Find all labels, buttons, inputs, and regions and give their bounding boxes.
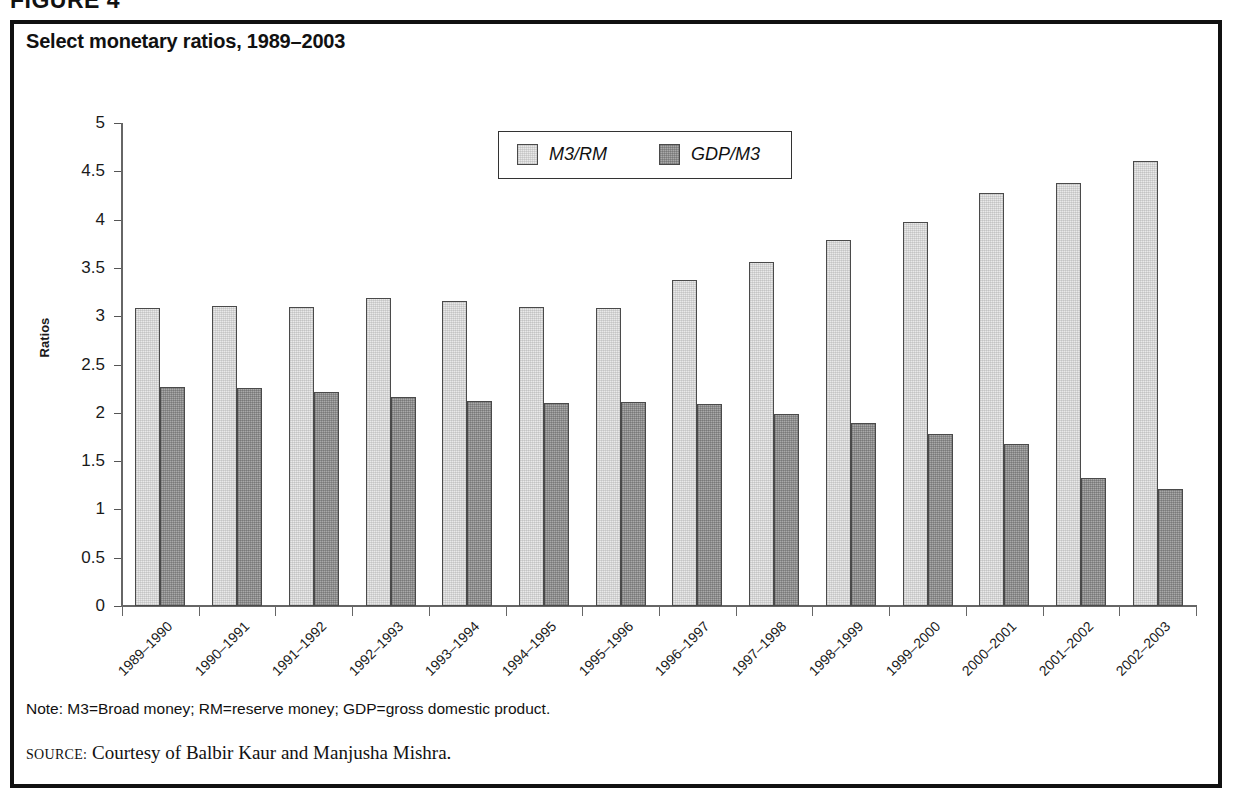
chart-note: Note: M3=Broad money; RM=reserve money; … [26, 700, 550, 718]
y-tick-mark [114, 171, 121, 172]
bar-m3-rm-1989–1990 [135, 308, 160, 606]
x-category-label: 1993–1994 [400, 618, 482, 700]
y-tick-label: 0.5 [59, 549, 105, 566]
bar-gdp-m3-1989–1990 [160, 387, 185, 606]
x-tick-mark [966, 607, 967, 616]
bar-m3-rm-1994–1995 [519, 307, 544, 606]
x-tick-mark [1043, 607, 1044, 616]
chart-source-text: Courtesy of Balbir Kaur and Manjusha Mis… [87, 742, 451, 763]
x-category-label: 1989–1990 [94, 618, 176, 700]
bar-gdp-m3-2002–2003 [1158, 489, 1183, 606]
bar-m3-rm-2001–2002 [1056, 183, 1081, 606]
bar-gdp-m3-1991–1992 [314, 392, 339, 606]
y-tick-mark [114, 509, 121, 510]
y-tick-mark [114, 316, 121, 317]
y-tick-mark [114, 413, 121, 414]
x-category-label: 1996–1997 [631, 618, 713, 700]
bar-gdp-m3-1996–1997 [697, 404, 722, 606]
bar-m3-rm-1999–2000 [903, 222, 928, 606]
x-category-label: 1999–2000 [861, 618, 943, 700]
x-category-label: 1992–1993 [324, 618, 406, 700]
x-category-label: 1990–1991 [170, 618, 252, 700]
x-category-label: 2001–2002 [1014, 618, 1096, 700]
x-category-label: 1995–1996 [554, 618, 636, 700]
chart-legend: M3/RMGDP/M3 [498, 131, 792, 179]
legend-swatch-icon [517, 144, 538, 165]
y-tick-label: 3.5 [59, 259, 105, 276]
chart-source: SOURCE: Courtesy of Balbir Kaur and Manj… [26, 742, 451, 764]
bar-gdp-m3-1993–1994 [467, 401, 492, 606]
bar-m3-rm-1993–1994 [442, 301, 467, 606]
y-tick-mark [114, 365, 121, 366]
bar-gdp-m3-1995–1996 [621, 402, 646, 606]
bar-gdp-m3-1997–1998 [774, 414, 799, 606]
chart-plot-area: Ratios 00.511.522.533.544.55 1989–199019… [0, 0, 1236, 810]
y-tick-label: 2.5 [59, 356, 105, 373]
x-category-label: 2000–2001 [937, 618, 1019, 700]
legend-entry-m3-rm: M3/RM [517, 144, 607, 165]
y-tick-label: 2 [59, 404, 105, 421]
bar-m3-rm-1998–1999 [826, 240, 851, 606]
bar-gdp-m3-1999–2000 [928, 434, 953, 606]
x-tick-mark [506, 607, 507, 616]
y-tick-mark [114, 268, 121, 269]
y-tick-label: 3 [59, 307, 105, 324]
y-tick-label: 4 [59, 211, 105, 228]
bar-m3-rm-1991–1992 [289, 307, 314, 606]
y-tick-label: 5 [59, 114, 105, 131]
x-category-label: 1998–1999 [784, 618, 866, 700]
bar-gdp-m3-2000–2001 [1004, 444, 1029, 606]
bar-m3-rm-2000–2001 [979, 193, 1004, 606]
x-tick-mark [275, 607, 276, 616]
x-category-label: 1994–1995 [477, 618, 559, 700]
x-category-label: 1997–1998 [707, 618, 789, 700]
legend-label: M3/RM [549, 144, 607, 165]
bar-m3-rm-1992–1993 [366, 298, 391, 606]
legend-entry-gdp-m3: GDP/M3 [659, 144, 760, 165]
y-axis-line [121, 123, 123, 607]
bar-gdp-m3-1992–1993 [391, 397, 416, 606]
y-tick-mark [114, 558, 121, 559]
legend-label: GDP/M3 [691, 144, 760, 165]
x-category-label: 1991–1992 [247, 618, 329, 700]
y-tick-mark [114, 220, 121, 221]
x-category-label: 2002–2003 [1091, 618, 1173, 700]
x-tick-mark [582, 607, 583, 616]
bar-m3-rm-1996–1997 [672, 280, 697, 606]
y-tick-mark [114, 461, 121, 462]
x-tick-mark [429, 607, 430, 616]
x-tick-mark [199, 607, 200, 616]
y-tick-mark [114, 606, 121, 607]
chart-source-kicker: SOURCE: [26, 747, 87, 762]
bar-m3-rm-1995–1996 [596, 308, 621, 606]
bar-gdp-m3-2001–2002 [1081, 478, 1106, 606]
x-tick-mark [1119, 607, 1120, 616]
bar-gdp-m3-1990–1991 [237, 388, 262, 606]
x-tick-mark [659, 607, 660, 616]
bar-gdp-m3-1994–1995 [544, 403, 569, 606]
x-tick-mark [812, 607, 813, 616]
y-axis-title: Ratios [37, 308, 52, 368]
x-tick-mark [1196, 607, 1197, 616]
y-tick-mark [114, 123, 121, 124]
x-tick-mark [352, 607, 353, 616]
bar-m3-rm-2002–2003 [1133, 161, 1158, 606]
legend-swatch-icon [659, 144, 680, 165]
y-tick-label: 1 [59, 500, 105, 517]
bar-m3-rm-1990–1991 [212, 306, 237, 606]
y-tick-label: 0 [59, 597, 105, 614]
y-tick-label: 1.5 [59, 452, 105, 469]
x-tick-mark [122, 607, 123, 616]
y-tick-label: 4.5 [59, 162, 105, 179]
bar-m3-rm-1997–1998 [749, 262, 774, 606]
bar-gdp-m3-1998–1999 [851, 423, 876, 606]
x-tick-mark [889, 607, 890, 616]
x-tick-mark [736, 607, 737, 616]
